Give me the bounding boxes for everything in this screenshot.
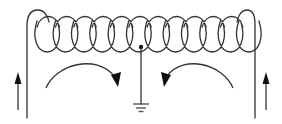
right-up-arrow-icon: [263, 72, 270, 110]
coil-winding: [35, 17, 261, 53]
coil-diagram: [0, 0, 282, 124]
left-up-arrow-icon: [15, 72, 22, 110]
right-lead-wire: [237, 10, 255, 118]
left-curved-flow-arrow-icon: [46, 64, 121, 88]
ground-icon: [133, 104, 149, 112]
coil-loops: [35, 17, 261, 53]
right-curved-flow-arrow-icon: [161, 64, 233, 88]
